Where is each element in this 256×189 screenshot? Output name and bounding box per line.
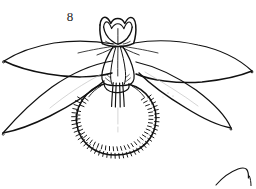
dorsal-sepal xyxy=(100,17,136,46)
lower-left-petal xyxy=(2,61,112,135)
partial-figure-bottom-right xyxy=(216,168,251,186)
staminode-filaments xyxy=(112,83,125,132)
botanical-plate: 8 xyxy=(0,0,256,189)
upper-left-petal xyxy=(3,41,114,77)
orchid-line-drawing xyxy=(0,0,256,189)
figure-number-label: 8 xyxy=(60,10,80,24)
